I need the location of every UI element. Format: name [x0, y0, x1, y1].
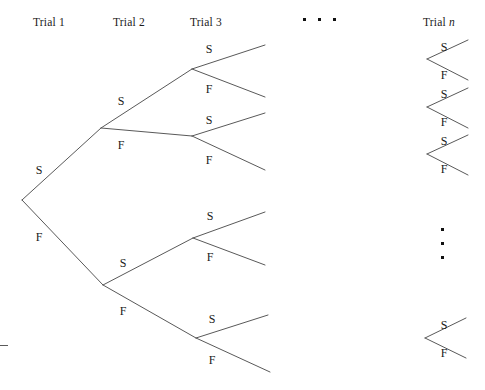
- branch-label-t3-sff: F: [206, 153, 213, 168]
- column-header-label: Trial 1: [33, 16, 65, 28]
- branch-label-t3-sss: S: [206, 42, 213, 57]
- ellipsis-dot: [318, 18, 321, 21]
- ellipsis-horizontal: [303, 18, 336, 21]
- tree-edge: [22, 128, 101, 200]
- column-header-label: Trial: [423, 16, 449, 28]
- branch-label-t3-sfs: S: [206, 113, 213, 128]
- tree-edge: [427, 40, 468, 59]
- column-header-label: Trial 3: [190, 16, 222, 28]
- tree-edge: [101, 69, 192, 128]
- column-header-trial-2: Trial 2: [113, 16, 145, 28]
- column-header-trial-3: Trial 3: [190, 16, 222, 28]
- ellipsis-dot: [441, 256, 444, 259]
- tree-diagram-canvas: Trial 1 Trial 2 Trial 3 Trial n SFSFSFSF…: [0, 0, 485, 390]
- branch-label-t2-ss: S: [118, 94, 125, 109]
- tree-edge: [427, 135, 468, 154]
- tree-edge: [192, 45, 265, 69]
- edges-group: [22, 40, 468, 372]
- branch-label-tn-1-s: S: [441, 40, 448, 55]
- tree-edge: [193, 238, 265, 265]
- branch-label-t2-fs: S: [120, 256, 127, 271]
- branch-label-t2-sf: F: [118, 138, 125, 153]
- tree-edge: [101, 128, 192, 136]
- branch-label-tn-1-f: F: [441, 68, 448, 83]
- branch-label-t3-ssf: F: [206, 82, 213, 97]
- branch-label-t3-fss: S: [207, 209, 214, 224]
- tree-edge: [193, 212, 265, 238]
- tree-edge: [427, 88, 468, 107]
- branch-label-tn-last-s: S: [441, 318, 448, 333]
- column-header-index-variable: n: [449, 16, 455, 28]
- column-header-trial-n: Trial n: [423, 16, 455, 28]
- tree-edge: [103, 285, 196, 338]
- ellipsis-dot: [441, 228, 444, 231]
- tree-edge: [192, 69, 265, 97]
- ellipsis-vertical: [441, 228, 444, 259]
- column-header-trial-1: Trial 1: [33, 16, 65, 28]
- branch-label-t2-ff: F: [120, 304, 127, 319]
- branch-label-t1-s: S: [36, 163, 43, 178]
- tree-edge: [22, 200, 103, 285]
- branch-label-t3-fsf: F: [207, 250, 214, 265]
- tree-edge: [196, 338, 270, 372]
- tree-edge: [103, 238, 193, 285]
- branch-label-tn-last-f: F: [441, 346, 448, 361]
- left-edge-tick: [0, 345, 8, 346]
- branch-label-t3-ffs: S: [209, 312, 216, 327]
- column-header-label: Trial 2: [113, 16, 145, 28]
- ellipsis-dot: [303, 18, 306, 21]
- branch-label-t1-f: F: [36, 230, 43, 245]
- tree-edge: [192, 136, 265, 170]
- tree-edge: [192, 113, 265, 136]
- tree-edge: [196, 315, 268, 338]
- branch-label-tn-2-f: F: [441, 115, 448, 130]
- branch-label-t3-fff: F: [209, 353, 216, 368]
- ellipsis-dot: [441, 242, 444, 245]
- ellipsis-dot: [333, 18, 336, 21]
- tree-edges-svg: [0, 0, 485, 390]
- branch-label-tn-3-s: S: [441, 134, 448, 149]
- branch-label-tn-3-f: F: [441, 162, 448, 177]
- branch-label-tn-2-s: S: [441, 87, 448, 102]
